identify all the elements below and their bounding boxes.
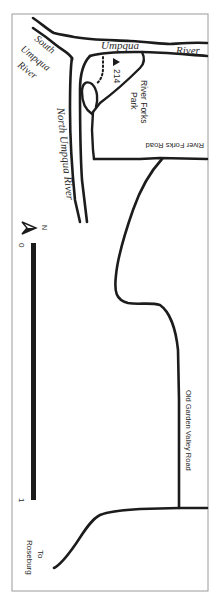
park-name-line2: Park — [129, 92, 139, 110]
park-name-line1: River Forks — [139, 80, 149, 123]
river-forks-road-line — [94, 158, 207, 159]
to-roseburg-label-line2: Roseburg — [25, 540, 34, 575]
umpqua-river-label-part2: River — [175, 44, 201, 56]
map-canvas: N 0 1 Umpqua River South Umpqua River No… — [0, 0, 221, 601]
umpqua-river-label-part1: Umpqua — [101, 39, 139, 51]
old-garden-valley-road-line — [115, 159, 179, 508]
to-roseburg-label-line1: To — [36, 550, 45, 559]
north-arrow-icon — [22, 222, 36, 234]
old-garden-valley-road-label: Old Garden Valley Road — [184, 390, 193, 471]
north-umpqua-river-east-bank — [80, 56, 90, 222]
north-arrow-label: N — [41, 225, 48, 230]
road-to-roseburg-line — [54, 508, 207, 568]
scale-end-label: 1 — [17, 498, 26, 503]
north-umpqua-river-label: North Umpqua River — [55, 106, 77, 201]
trailhead-icon — [113, 58, 120, 66]
trail-214-path — [96, 57, 103, 84]
river-forks-road-label: River Forks Road — [146, 141, 204, 150]
scale-bar — [31, 243, 36, 500]
trail-number-label: 214 — [112, 69, 122, 83]
scale-start-label: 0 — [17, 243, 26, 248]
